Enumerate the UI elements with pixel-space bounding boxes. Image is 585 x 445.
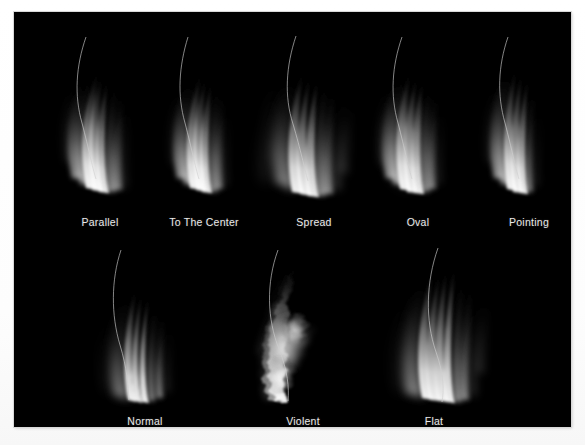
label-to-the-center: To The Center [169,216,239,228]
label-violent: Violent [286,415,320,427]
label-oval: Oval [407,216,430,228]
label-normal: Normal [127,415,162,427]
label-parallel: Parallel [81,216,118,228]
label-spread: Spread [296,216,331,228]
label-flat: Flat [425,415,444,427]
figure-root: Parallel To The Center Spread Oval Point… [0,0,585,445]
black-photo-panel: Parallel To The Center Spread Oval Point… [14,12,571,427]
label-pointing: Pointing [509,216,549,228]
